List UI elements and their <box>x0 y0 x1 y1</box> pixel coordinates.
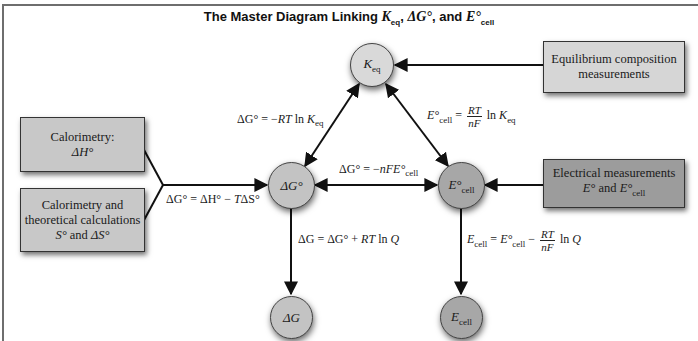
equation-ecell-q: Ecell = E°cell − RTnF ln Q <box>467 228 581 253</box>
node-keq-label: Keq <box>363 56 380 74</box>
node-ecell0: E°cell <box>438 162 485 209</box>
box-theoretical-line1: Calorimetry and <box>42 198 124 213</box>
node-dg0: ΔG° <box>268 162 315 209</box>
equation-ecell-keq: E°cell = RTnF ln Keq <box>427 104 516 129</box>
box-equilibrium-line2: measurements <box>578 67 650 82</box>
equation-dg-keq: ΔG° = −RT ln Keq <box>237 112 324 128</box>
fraction-rt-nf: RTnF <box>467 104 482 129</box>
box-theoretical-calculations: Calorimetry and theoretical calculations… <box>20 188 145 252</box>
node-dg-label: ΔG <box>283 310 300 326</box>
box-equilibrium-composition: Equilibrium composition measurements <box>543 41 685 93</box>
box-calorimetry: Calorimetry: ΔH° <box>20 117 145 172</box>
node-ecell-label: Ecell <box>451 309 472 327</box>
box-electrical-line1: Electrical measurements <box>553 166 676 181</box>
node-dg: ΔG <box>270 296 313 339</box>
node-keq: Keq <box>350 43 394 87</box>
equation-dg-ecell: ΔG° = −nFE°cell <box>339 162 418 178</box>
box-theoretical-line3: S° and ΔS° <box>55 228 109 243</box>
box-calorimetry-line1: Calorimetry: <box>51 130 115 145</box>
box-calorimetry-line2: ΔH° <box>72 145 93 160</box>
node-ecell: Ecell <box>440 296 483 339</box>
equation-dg-q: ΔG = ΔG° + RT ln Q <box>298 232 399 247</box>
merge-line-calorimetry <box>143 148 163 185</box>
equation-dg-dh-tds: ΔG° = ΔH° − TΔS° <box>166 192 260 207</box>
box-theoretical-line2: theoretical calculations <box>25 213 141 228</box>
node-dg0-label: ΔG° <box>280 178 302 194</box>
box-electrical-measurements: Electrical measurements E° and E°cell <box>543 159 685 208</box>
box-electrical-line2: E° and E°cell <box>583 181 646 201</box>
node-ecell0-label: E°cell <box>448 177 474 195</box>
merge-line-theoretical <box>143 185 163 222</box>
box-equilibrium-line1: Equilibrium composition <box>551 52 676 67</box>
fraction-rt-nf-2: RTnF <box>540 228 555 253</box>
